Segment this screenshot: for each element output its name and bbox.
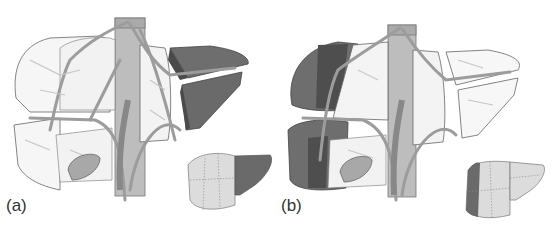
liver-inset-b (466, 161, 545, 218)
segment-right-lower (14, 118, 60, 190)
segment-left-lateral-lower (458, 78, 518, 138)
panel-a: (a) (0, 0, 278, 229)
liver-inset-a (188, 153, 272, 210)
segment-left-lateral-lower (182, 72, 242, 130)
liver-diagram-a (0, 0, 278, 229)
panel-label-b: (b) (281, 196, 302, 216)
panel-label-a: (a) (6, 196, 27, 216)
panel-b: (b) (278, 0, 556, 229)
liver-diagram-b (278, 0, 556, 229)
